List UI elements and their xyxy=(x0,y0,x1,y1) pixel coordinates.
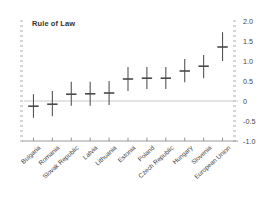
y-axis-tick-label: -0.5 xyxy=(243,117,255,126)
chart-container: Rule of Law 2.01.51.00.50-0.5-1.0 Bulgar… xyxy=(0,0,273,198)
y-axis-tick-label: 1.0 xyxy=(243,57,253,66)
y-axis-tick-label: 2.0 xyxy=(243,17,253,26)
chart-plot-area xyxy=(0,0,273,198)
y-axis-tick-label: 0.5 xyxy=(243,77,253,86)
y-axis-tick-label: 1.5 xyxy=(243,37,253,46)
y-axis-tick-label: 0 xyxy=(243,97,247,106)
y-axis-tick-label: -1.0 xyxy=(243,137,255,146)
